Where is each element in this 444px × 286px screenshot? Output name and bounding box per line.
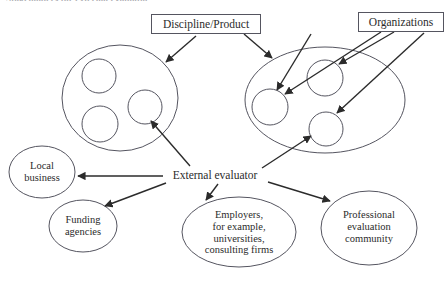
right-cluster-inner-top [307,60,343,96]
right-cluster-outline [245,47,405,153]
box-organizations[interactable]: Organizations [358,12,444,32]
edge-discipline-to-right-cluster [244,34,272,58]
left-cluster-inner-bottom [82,106,118,142]
local-business-outline [9,146,75,198]
edge-discipline-to-right-inner-left [277,34,311,90]
edge-organizations-to-right-inner-top [339,32,394,64]
right-cluster-inner-left [252,89,288,125]
right-cluster-inner-bottom [309,112,343,146]
diagram-canvas: Stakeholders for external evaluator [0,0,444,286]
left-cluster-inner-top [82,59,116,93]
edge-evaluator-to-professional-community [268,182,330,201]
left-cluster-outline [62,45,178,151]
employers-outline [182,197,296,267]
funding-agencies-outline [49,200,117,252]
professional-evaluation-community-outline [321,191,417,265]
edge-organizations-to-right-inner-bottom [337,33,424,113]
edge-discipline-to-left-cluster [166,36,196,62]
box-discipline-product[interactable]: Discipline/Product [151,14,261,34]
edge-evaluator-to-right-inner-bottom [262,136,311,168]
diagram-graphics [0,0,444,286]
edge-evaluator-to-employers [206,184,218,200]
edge-evaluator-to-left-inner-right [151,121,190,166]
edge-organizations-to-right-inner-left [285,32,381,94]
edge-evaluator-to-funding-agencies [105,183,166,206]
left-cluster-inner-right [128,90,162,124]
